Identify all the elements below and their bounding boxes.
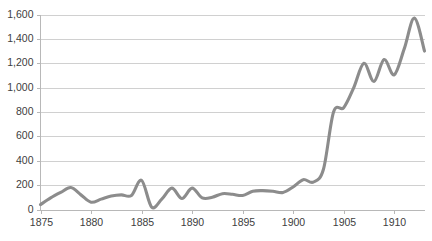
- y-axis-tick-label: 0: [28, 203, 34, 215]
- x-axis-tick-label: 1885: [131, 216, 155, 228]
- x-axis-tick-label: 1905: [333, 216, 357, 228]
- y-axis-tick-label: 1,600: [7, 8, 33, 20]
- line-chart: 02004006008001,0001,2001,4001,600 187518…: [0, 0, 432, 241]
- gridlines-group: [37, 15, 425, 211]
- y-axis-tick-label: 1,400: [7, 32, 33, 44]
- y-axis-tick-label: 400: [16, 154, 34, 166]
- y-axis-labels-group: 02004006008001,0001,2001,4001,600: [7, 8, 33, 215]
- y-axis-tick-label: 600: [16, 129, 34, 141]
- x-axis-tick-label: 1895: [232, 216, 256, 228]
- x-axis-group: 18751880188518901895190019051910: [30, 210, 407, 228]
- x-axis-tick-label: 1875: [30, 216, 54, 228]
- y-axis-tick-label: 800: [16, 105, 34, 117]
- x-axis-tick-label: 1900: [282, 216, 306, 228]
- x-axis-tick-label: 1890: [181, 216, 205, 228]
- y-axis-tick-label: 1,000: [7, 81, 33, 93]
- x-axis-tick-label: 1880: [80, 216, 104, 228]
- chart-canvas: 02004006008001,0001,2001,4001,600 187518…: [0, 0, 432, 241]
- y-axis-tick-label: 200: [16, 178, 34, 190]
- x-axis-tick-label: 1910: [383, 216, 407, 228]
- y-axis-tick-label: 1,200: [7, 56, 33, 68]
